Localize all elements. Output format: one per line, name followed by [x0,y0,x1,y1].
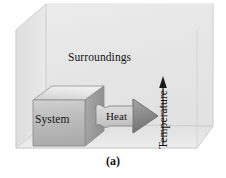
heat-label: Heat [106,110,127,122]
figure-caption: (a) [0,154,226,169]
surroundings-box-icon [0,0,226,152]
figure-container: Surroundings System Heat Temperature (a) [0,0,226,178]
system-label: System [35,113,69,125]
surroundings-label: Surroundings [68,51,131,63]
temperature-label-text: Temperature [157,83,169,149]
surroundings-box-scene [0,0,226,152]
